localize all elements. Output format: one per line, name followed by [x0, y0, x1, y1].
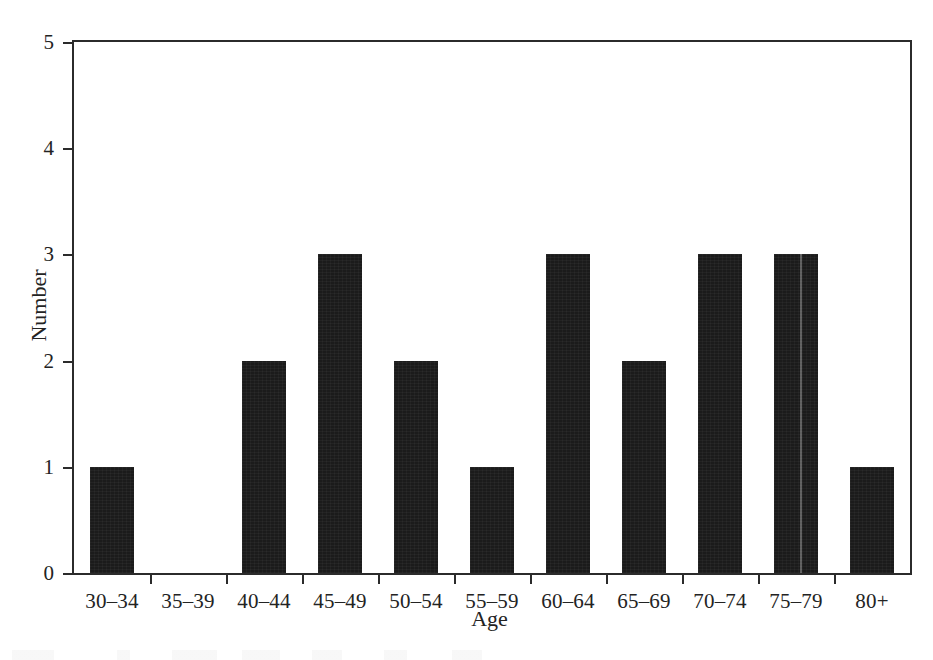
- x-axis-tick: [758, 573, 760, 584]
- x-axis-tick: [378, 573, 380, 584]
- x-axis-tick: [302, 573, 304, 584]
- x-axis-tick: [682, 573, 684, 584]
- x-axis-title: Age: [0, 606, 933, 632]
- scan-artifact-caption-fragment: [12, 650, 532, 660]
- x-axis-tick: [606, 573, 608, 584]
- y-axis-tick: 2: [63, 361, 74, 363]
- bars-layer: [74, 42, 910, 573]
- bar: [698, 254, 742, 573]
- bar: [242, 361, 286, 573]
- y-axis-tick: 1: [63, 467, 74, 469]
- bar: [774, 254, 818, 573]
- y-axis-tick: 5: [63, 42, 74, 44]
- plot-area: 01234530–3435–3940–4445–4950–5455–5960–6…: [72, 40, 912, 575]
- bar: [546, 254, 590, 573]
- y-axis-tick: 4: [63, 148, 74, 150]
- bar: [90, 467, 134, 573]
- y-axis-title: Number: [26, 40, 56, 571]
- bar: [850, 467, 894, 573]
- bar: [318, 254, 362, 573]
- y-axis-title-text: Number: [26, 269, 51, 341]
- x-axis-tick: [226, 573, 228, 584]
- x-axis-tick: [454, 573, 456, 584]
- y-axis-tick: 0: [63, 573, 74, 575]
- bar: [470, 467, 514, 573]
- bar: [622, 361, 666, 573]
- x-axis-tick: [834, 573, 836, 584]
- bar: [394, 361, 438, 573]
- x-axis-title-text: Age: [471, 606, 508, 632]
- y-axis-tick: 3: [63, 254, 74, 256]
- figure: 01234530–3435–3940–4445–4950–5455–5960–6…: [0, 0, 933, 660]
- x-axis-tick: [530, 573, 532, 584]
- x-axis-tick: [150, 573, 152, 584]
